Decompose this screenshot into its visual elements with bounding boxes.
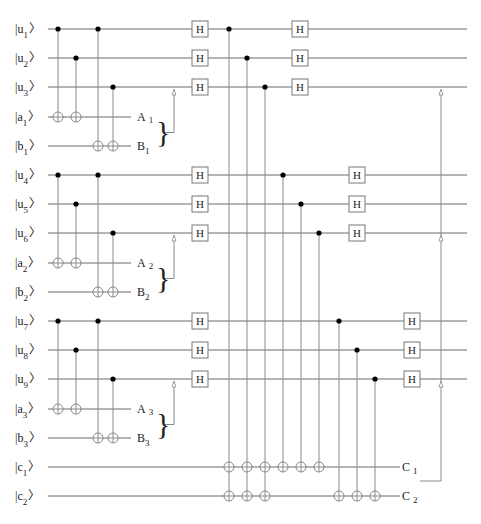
- cnot-target-c2: [224, 491, 234, 501]
- ket-label-b3: |b3〉: [15, 431, 41, 449]
- feedback-arrow-icon: [172, 381, 176, 387]
- hadamard-gate-2-u3: H: [292, 79, 308, 95]
- control-dot: [73, 347, 78, 352]
- quantum-circuit-diagram: |u1〉|u2〉|u3〉|a1〉|b1〉|u4〉|u5〉|u6〉|a2〉|b2〉…: [0, 0, 481, 524]
- cnot-target-c2: [370, 491, 380, 501]
- ket-label-a3: |a3〉: [15, 402, 40, 420]
- cnot-target-c1: [314, 462, 324, 472]
- ket-label-u6: |u6〉: [15, 226, 41, 244]
- control-dot-u9: [372, 376, 377, 381]
- cnot-target: [93, 287, 103, 297]
- hadamard-gate-u6: H: [192, 225, 208, 241]
- hadamard-gate-u2: H: [192, 50, 208, 66]
- cnot-target: [53, 404, 63, 414]
- cnot-target-c1: [260, 462, 270, 472]
- control-dot-u7: [336, 318, 341, 323]
- feedback-arrow-icon-u3: [439, 89, 443, 95]
- ket-label-c2: |c2〉: [15, 489, 40, 507]
- hadamard-gate-2-u2: H: [292, 50, 308, 66]
- output-label-C2: C2: [402, 489, 418, 505]
- hadamard-label: H: [353, 227, 361, 239]
- cnot-target-c2: [242, 491, 252, 501]
- hadamard-gate-u4: H: [192, 167, 208, 183]
- control-dot: [73, 55, 78, 60]
- hadamard-label: H: [353, 169, 361, 181]
- control-dot: [110, 84, 115, 89]
- control-dot: [73, 201, 78, 206]
- hadamard-label: H: [196, 315, 204, 327]
- ket-label-u5: |u5〉: [15, 197, 41, 215]
- hadamard-label: H: [196, 373, 204, 385]
- hadamard-label: H: [196, 81, 204, 93]
- ket-label-a2: |a2〉: [15, 256, 40, 274]
- cnot-target: [53, 258, 63, 268]
- hadamard-gate-u9: H: [192, 371, 208, 387]
- control-dot-u2: [244, 55, 249, 60]
- hadamard-gate-2-u4: H: [349, 167, 365, 183]
- cnot-target-c1: [242, 462, 252, 472]
- hadamard-label: H: [196, 344, 204, 356]
- curly-brace-icon: }: [156, 407, 170, 440]
- hadamard-label: H: [196, 198, 204, 210]
- control-dot-u4: [280, 172, 285, 177]
- cnot-target: [71, 404, 81, 414]
- cnot-target-c2: [260, 491, 270, 501]
- ket-label-u2: |u2〉: [15, 51, 41, 69]
- control-dot: [95, 318, 100, 323]
- hadamard-gate-2-u6: H: [349, 225, 365, 241]
- hadamard-gate-2-u1: H: [292, 21, 308, 37]
- control-dot-u8: [354, 347, 359, 352]
- hadamard-gate-2-u5: H: [349, 196, 365, 212]
- ket-label-u8: |u8〉: [15, 343, 41, 361]
- control-dot: [110, 376, 115, 381]
- qubit-labels: |u1〉|u2〉|u3〉|a1〉|b1〉|u4〉|u5〉|u6〉|a2〉|b2〉…: [15, 22, 41, 507]
- hadamard-gate-u8: H: [192, 342, 208, 358]
- hadamard-label: H: [196, 23, 204, 35]
- ket-label-u1: |u1〉: [15, 22, 41, 40]
- feedback-arrow-icon-u6: [439, 235, 443, 241]
- output-label-B2: B2: [137, 285, 150, 302]
- feedback-arrow-icon: [172, 89, 176, 95]
- ket-label-u7: |u7〉: [15, 314, 41, 332]
- cnot-target: [108, 433, 118, 443]
- ket-label-b1: |b1〉: [15, 139, 41, 157]
- output-label-A1: A1: [137, 110, 153, 125]
- output-label-B1: B1: [137, 139, 150, 156]
- hadamard-label: H: [408, 344, 416, 356]
- hadamard-gate-u5: H: [192, 196, 208, 212]
- hadamard-gate-u3: H: [192, 79, 208, 95]
- output-label-B3: B3: [137, 431, 150, 448]
- qubit-wires: [48, 29, 467, 496]
- hadamard-gate-2-u7: H: [404, 313, 420, 329]
- hadamard-label: H: [408, 373, 416, 385]
- cnot-target: [93, 433, 103, 443]
- control-dot: [55, 26, 60, 31]
- final-feedback-line: [420, 90, 441, 481]
- output-label-A2: A2: [137, 256, 153, 271]
- output-label-C1: C1: [402, 460, 418, 476]
- control-dot-u3: [262, 84, 267, 89]
- feedback-arrow-icon-u9: [439, 381, 443, 387]
- cnot-target: [53, 112, 63, 122]
- cnot-target-c1: [224, 462, 234, 472]
- cnot-target-c1: [278, 462, 288, 472]
- hadamard-gate-2-u9: H: [404, 371, 420, 387]
- ket-label-a1: |a1〉: [15, 110, 40, 128]
- cnot-target: [108, 287, 118, 297]
- control-dot-u1: [226, 26, 231, 31]
- control-dot-u6: [316, 230, 321, 235]
- ket-label-b2: |b2〉: [15, 285, 41, 303]
- curly-brace-icon: }: [156, 115, 170, 148]
- feedback-arrow-icon: [172, 235, 176, 241]
- ket-label-u4: |u4〉: [15, 168, 41, 186]
- cnot-target: [108, 141, 118, 151]
- hadamard-label: H: [353, 198, 361, 210]
- cnot-target-c1: [296, 462, 306, 472]
- control-dot: [55, 172, 60, 177]
- output-label-A3: A3: [137, 402, 154, 417]
- hadamard-label: H: [296, 52, 304, 64]
- hadamard-label: H: [296, 81, 304, 93]
- control-dot: [95, 26, 100, 31]
- hadamard-gate-2-u8: H: [404, 342, 420, 358]
- hadamard-label: H: [296, 23, 304, 35]
